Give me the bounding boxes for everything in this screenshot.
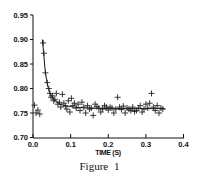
y-tick-label: 0.90	[13, 35, 28, 44]
x-tick-label: 0.1	[65, 140, 75, 149]
plus-marker	[90, 112, 96, 118]
y-tick-label: 0.85	[13, 60, 28, 69]
plus-marker	[67, 109, 73, 115]
fit-curve	[42, 40, 164, 109]
y-tick-label: 0.80	[13, 84, 28, 93]
plus-marker	[44, 80, 50, 86]
x-axis-title: TIME (S)	[95, 149, 121, 157]
y-tick-label: 0.70	[13, 133, 28, 142]
chart: 0.950.900.850.800.750.70 0.00.10.20.30.4…	[0, 0, 199, 160]
data-points	[32, 40, 166, 119]
plus-marker	[83, 110, 89, 116]
plus-marker	[46, 86, 52, 92]
plus-marker	[51, 98, 57, 104]
x-tick-label: 0.4	[178, 140, 189, 149]
y-tick-label: 0.75	[13, 109, 28, 118]
plus-marker	[40, 40, 46, 46]
plus-marker	[59, 91, 65, 97]
y-tick-label: 0.95	[13, 11, 28, 20]
plus-marker	[62, 103, 68, 109]
plus-marker	[115, 94, 121, 100]
x-tick-label: 0.3	[141, 140, 151, 149]
plus-marker	[149, 90, 155, 96]
plus-marker	[64, 106, 70, 112]
plus-marker	[42, 70, 48, 76]
y-axis: 0.950.900.850.800.750.70	[13, 11, 33, 143]
x-axis: 0.00.10.20.30.4 TIME (S)	[28, 134, 190, 157]
plus-marker	[32, 102, 38, 108]
x-tick-label: 0.0	[28, 140, 38, 149]
plus-marker	[41, 50, 47, 56]
x-tick-label: 0.2	[103, 140, 113, 149]
figure-caption: Figure 1	[0, 160, 199, 172]
